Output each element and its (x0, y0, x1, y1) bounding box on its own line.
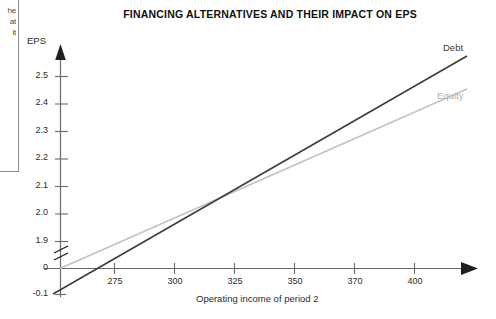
y-tick-label-neg-0-1: -0.1 (15, 288, 48, 298)
y-axis-title: EPS (27, 35, 46, 46)
x-tick-label-350: 350 (280, 276, 310, 286)
x-axis-arrowhead (461, 262, 478, 275)
x-tick-label-325: 325 (220, 276, 250, 286)
series-label-equity: Equity (437, 90, 463, 101)
x-axis-title: Operating income of period 2 (196, 293, 319, 304)
y-tick-label-2-1: 2.1 (22, 180, 48, 190)
y-tick-label-2-4: 2.4 (22, 97, 48, 107)
series-line-equity (60, 89, 467, 269)
series-label-debt: Debt (443, 42, 463, 53)
x-tick-label-370: 370 (340, 276, 370, 286)
x-tick-label-400: 400 (400, 276, 430, 286)
y-tick-label-2-5: 2.5 (22, 70, 48, 80)
y-axis-ticks (55, 77, 68, 295)
page-canvas: he at it FINANCING ALTERNATIVES AND THEI… (0, 0, 496, 319)
y-axis-arrowhead (55, 44, 66, 60)
x-tick-label-300: 300 (160, 276, 190, 286)
chart-plot-svg (0, 0, 496, 319)
x-tick-label-275: 275 (100, 276, 130, 286)
y-tick-label-0: 0 (22, 262, 48, 272)
y-tick-label-2-0: 2.0 (22, 207, 48, 217)
y-tick-label-2-3: 2.3 (22, 125, 48, 135)
series-line-debt (53, 56, 467, 294)
y-tick-label-1-9: 1.9 (22, 235, 48, 245)
y-tick-label-2-2: 2.2 (22, 152, 48, 162)
